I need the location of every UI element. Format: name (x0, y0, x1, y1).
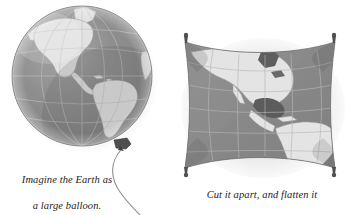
map-caption-line-2: to make a map. (189, 214, 335, 215)
globe-caption-line-1: Imagine the Earth as (0, 173, 140, 186)
globe-rim (12, 6, 152, 146)
map-caption: Cut it apart, and flatten it to make a m… (189, 175, 335, 215)
pin-top-right (332, 33, 336, 43)
pin-top-left (184, 33, 188, 43)
globe-caption: Imagine the Earth as a large balloon. (0, 160, 140, 215)
figure-root: Imagine the Earth as a large balloon. (0, 0, 347, 215)
balloon-knot (114, 138, 131, 149)
pin-bottom-left (184, 167, 188, 177)
globe-panel: Imagine the Earth as a large balloon. (0, 0, 174, 215)
map-panel: Cut it apart, and flatten it to make a m… (173, 0, 347, 215)
map-caption-line-1: Cut it apart, and flatten it (189, 188, 335, 201)
globe-caption-line-2: a large balloon. (0, 199, 140, 212)
